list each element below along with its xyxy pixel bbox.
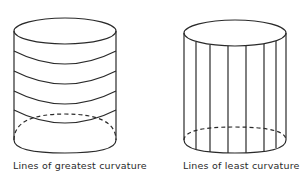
top-ellipse — [184, 20, 286, 46]
top-ellipse — [14, 18, 116, 44]
curvature-band-3 — [14, 91, 116, 104]
curvature-band-1 — [14, 51, 116, 64]
caption-greatest-curvature: Lines of greatest curvature — [13, 160, 123, 171]
cylinder-diagram — [0, 0, 300, 186]
curvature-band-4 — [14, 110, 116, 123]
bottom-ellipse-front — [184, 140, 286, 153]
bottom-ellipse-hidden — [184, 127, 286, 140]
cylinder-greatest-curvature — [14, 18, 116, 153]
bottom-ellipse-hidden — [14, 114, 116, 140]
caption-least-curvature: Lines of least curvature — [183, 160, 288, 171]
curvature-band-2 — [14, 71, 116, 84]
cylinder-least-curvature — [184, 20, 286, 153]
bottom-ellipse-front — [14, 140, 116, 153]
